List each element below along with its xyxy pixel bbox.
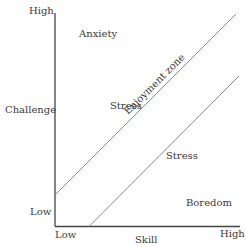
x-axis-title: Skill — [135, 235, 158, 245]
x-axis-high-label: High — [220, 229, 245, 239]
x-axis-low-label: Low — [55, 230, 76, 240]
upper-boundary-line — [55, 14, 236, 195]
region-stress-lower: Stress — [166, 151, 198, 161]
region-boredom: Boredom — [186, 198, 232, 208]
y-axis-low-label: Low — [30, 207, 51, 217]
flow-diagram: High Challenge Low Low Skill High Anxiet… — [0, 0, 246, 247]
y-axis-title: Challenge — [5, 105, 56, 115]
y-axis-high-label: High — [29, 6, 54, 16]
region-anxiety: Anxiety — [79, 29, 117, 39]
